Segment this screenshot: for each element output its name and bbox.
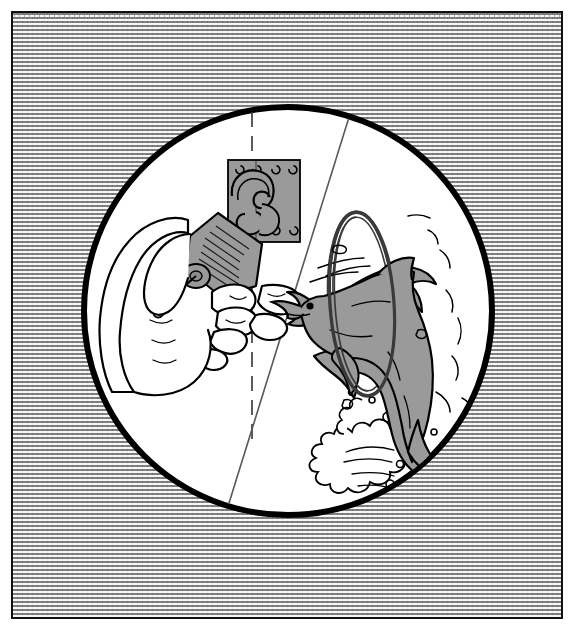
illustration-stage [0,0,576,632]
dolphin-eye [306,302,313,309]
illustration-artwork [0,0,576,632]
